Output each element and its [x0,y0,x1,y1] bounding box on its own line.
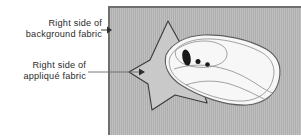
figure-appliqué-diagram: Right side of background fabric Right si… [0,0,301,140]
callout-arrow-background [101,27,112,34]
callout-label-background-fabric-line2: background fabric [6,29,102,40]
callout-label-applique-fabric-line1: Right side of [6,60,86,71]
callout-label-background-fabric: Right side of background fabric [6,18,102,41]
callout-label-applique-fabric: Right side of appliqué fabric [6,60,86,83]
motif-dot-1 [196,59,201,64]
callout-label-applique-fabric-line2: appliqué fabric [6,71,86,82]
callout-label-background-fabric-line1: Right side of [6,18,102,29]
motif-dot-2 [205,62,210,67]
